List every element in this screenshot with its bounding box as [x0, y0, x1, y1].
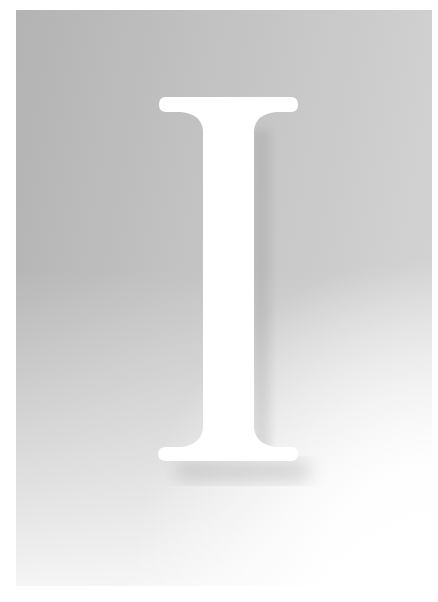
letter-i-glyph: I [0, 0, 438, 602]
glyph-shadow [175, 462, 310, 480]
page: I [0, 0, 438, 602]
letter-i [158, 97, 298, 461]
